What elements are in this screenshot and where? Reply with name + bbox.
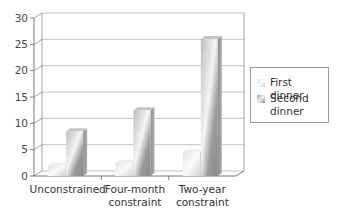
bar-second-dinner — [201, 36, 222, 176]
chart-bars — [48, 36, 222, 176]
x-category-label: Two-year — [178, 183, 227, 195]
x-category-label: Four-month — [105, 183, 165, 195]
legend-label: Second — [270, 92, 309, 105]
chart-labels: 051015202530UnconstrainedFour-monthconst… — [15, 12, 229, 209]
chart-legend: First dinner Second dinner — [250, 67, 329, 123]
x-category-label: constraint — [109, 196, 162, 208]
legend-swatch-second-dinner-icon — [257, 95, 265, 103]
bar-second-dinner — [66, 128, 87, 176]
bar-second-dinner — [134, 107, 155, 176]
bar-first-dinner — [48, 162, 69, 176]
legend-label: dinner — [270, 105, 309, 118]
bar-first-dinner — [116, 160, 137, 176]
y-tick-label: 25 — [15, 38, 28, 50]
x-category-label: Unconstrained — [30, 183, 106, 195]
y-tick-label: 10 — [15, 117, 28, 129]
legend-item-second-dinner: Second dinner — [257, 92, 309, 118]
y-tick-label: 20 — [15, 64, 28, 76]
y-tick-label: 30 — [15, 12, 28, 24]
y-tick-label: 5 — [21, 143, 28, 155]
y-tick-label: 15 — [15, 91, 28, 103]
legend-swatch-first-dinner-icon — [257, 79, 265, 87]
bar-first-dinner — [183, 149, 204, 176]
y-tick-label: 0 — [21, 170, 28, 182]
x-category-label: constraint — [176, 196, 229, 208]
